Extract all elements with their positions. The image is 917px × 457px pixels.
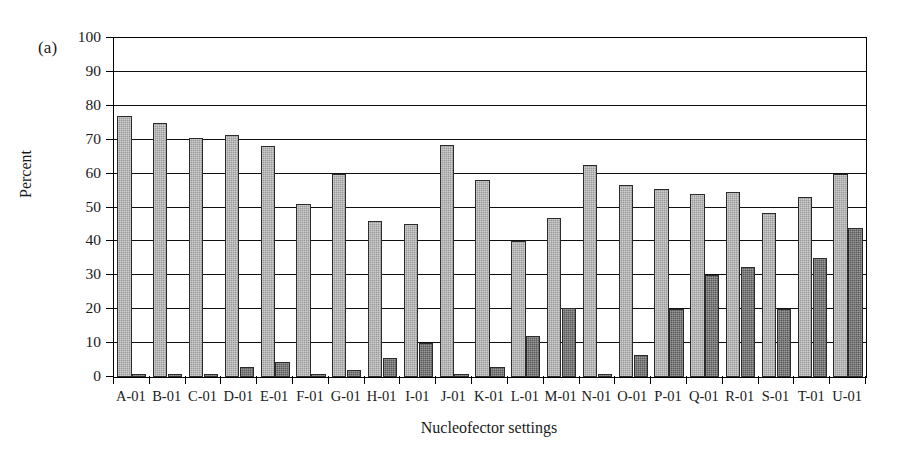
figure-panel-a: (a) Percent 0102030405060708090100 A-01B… bbox=[0, 0, 917, 457]
bar-series-1-P-01 bbox=[654, 189, 668, 377]
bar-series-1-B-01 bbox=[153, 123, 167, 377]
y-tick-mark bbox=[106, 274, 113, 275]
x-tick-mark bbox=[185, 376, 186, 384]
y-tick-label: 30 bbox=[55, 267, 101, 283]
bar-series-1-D-01 bbox=[225, 135, 239, 377]
y-tick-mark bbox=[106, 37, 113, 38]
bar-series-1-T-01 bbox=[798, 197, 812, 377]
x-tick-mark bbox=[292, 376, 293, 384]
x-tick-mark bbox=[328, 376, 329, 384]
x-tick-label-I-01: I-01 bbox=[405, 388, 429, 405]
bar-series-2-O-01 bbox=[634, 355, 648, 377]
bar-series-1-K-01 bbox=[475, 180, 489, 377]
x-tick-mark bbox=[471, 376, 472, 384]
bar-series-2-Q-01 bbox=[705, 275, 719, 377]
bar-group bbox=[257, 38, 293, 377]
x-axis-title: Nucleofector settings bbox=[113, 419, 865, 437]
bar-series-1-M-01 bbox=[547, 218, 561, 377]
y-tick-label: 20 bbox=[55, 300, 101, 316]
bar-group bbox=[150, 38, 186, 377]
bar-group bbox=[293, 38, 329, 377]
bar-group bbox=[400, 38, 436, 377]
y-tick-label: 50 bbox=[55, 199, 101, 215]
y-tick-label: 100 bbox=[55, 29, 101, 45]
y-tick-mark bbox=[106, 105, 113, 106]
x-tick-label-M-01: M-01 bbox=[544, 388, 576, 405]
x-tick-label-U-01: U-01 bbox=[832, 388, 862, 405]
x-tick-label-R-01: R-01 bbox=[725, 388, 754, 405]
x-tick-label-E-01: E-01 bbox=[260, 388, 288, 405]
x-tick-mark bbox=[543, 376, 544, 384]
x-tick-label-B-01: B-01 bbox=[152, 388, 181, 405]
x-tick-mark bbox=[220, 376, 221, 384]
x-tick-label-O-01: O-01 bbox=[617, 388, 647, 405]
x-tick-mark bbox=[256, 376, 257, 384]
bar-series-1-O-01 bbox=[619, 185, 633, 377]
x-tick-label-H-01: H-01 bbox=[367, 388, 397, 405]
bar-group bbox=[615, 38, 651, 377]
y-tick-label: 90 bbox=[55, 63, 101, 79]
bar-group bbox=[794, 38, 830, 377]
bar-series-1-N-01 bbox=[583, 165, 597, 377]
bar-series-1-L-01 bbox=[511, 241, 525, 377]
plot-area bbox=[113, 37, 867, 378]
x-tick-label-P-01: P-01 bbox=[654, 388, 681, 405]
y-tick-mark bbox=[106, 342, 113, 343]
bar-series-2-U-01 bbox=[848, 228, 862, 377]
bar-group bbox=[329, 38, 365, 377]
bar-group bbox=[114, 38, 150, 377]
bar-series-2-L-01 bbox=[526, 336, 540, 377]
bar-series-2-T-01 bbox=[813, 258, 827, 377]
y-tick-label: 10 bbox=[55, 334, 101, 350]
bar-group bbox=[723, 38, 759, 377]
bar-group bbox=[508, 38, 544, 377]
x-tick-mark bbox=[113, 376, 114, 384]
bar-group bbox=[580, 38, 616, 377]
bar-group bbox=[186, 38, 222, 377]
bar-series-2-H-01 bbox=[383, 358, 397, 377]
y-tick-label: 40 bbox=[55, 233, 101, 249]
bar-series-1-U-01 bbox=[833, 174, 847, 377]
x-tick-label-A-01: A-01 bbox=[116, 388, 146, 405]
x-tick-mark bbox=[722, 376, 723, 384]
y-tick-mark bbox=[106, 376, 113, 377]
bar-group bbox=[830, 38, 866, 377]
bar-series-1-F-01 bbox=[296, 204, 310, 377]
bar-series-2-I-01 bbox=[419, 343, 433, 377]
y-tick-label: 0 bbox=[55, 368, 101, 384]
y-tick-mark bbox=[106, 240, 113, 241]
y-tick-mark bbox=[106, 207, 113, 208]
bar-series-1-Q-01 bbox=[690, 194, 704, 377]
bar-group bbox=[472, 38, 508, 377]
bar-series-2-S-01 bbox=[777, 309, 791, 377]
bar-series-container bbox=[114, 38, 866, 377]
bar-series-1-R-01 bbox=[726, 192, 740, 377]
x-tick-label-S-01: S-01 bbox=[762, 388, 789, 405]
bar-group bbox=[221, 38, 257, 377]
bar-series-2-R-01 bbox=[741, 267, 755, 377]
x-axis-tick-marks bbox=[113, 376, 865, 386]
bar-series-1-G-01 bbox=[332, 174, 346, 377]
y-tick-mark bbox=[106, 139, 113, 140]
x-tick-label-Q-01: Q-01 bbox=[689, 388, 719, 405]
bar-series-2-M-01 bbox=[562, 308, 576, 377]
x-tick-mark bbox=[650, 376, 651, 384]
bar-series-1-I-01 bbox=[404, 224, 418, 377]
x-tick-mark bbox=[507, 376, 508, 384]
bar-group bbox=[651, 38, 687, 377]
bar-group bbox=[687, 38, 723, 377]
bar-series-2-E-01 bbox=[275, 362, 289, 377]
bar-series-1-C-01 bbox=[189, 138, 203, 377]
x-tick-mark bbox=[399, 376, 400, 384]
bar-series-2-P-01 bbox=[669, 309, 683, 377]
x-tick-label-K-01: K-01 bbox=[474, 388, 504, 405]
y-tick-label: 60 bbox=[55, 165, 101, 181]
bar-series-1-S-01 bbox=[762, 213, 776, 377]
x-tick-mark bbox=[364, 376, 365, 384]
x-tick-label-D-01: D-01 bbox=[223, 388, 253, 405]
x-tick-mark bbox=[149, 376, 150, 384]
bar-series-1-E-01 bbox=[261, 146, 275, 377]
y-axis-title: Percent bbox=[17, 114, 35, 234]
y-tick-mark bbox=[106, 173, 113, 174]
y-tick-label: 70 bbox=[55, 131, 101, 147]
